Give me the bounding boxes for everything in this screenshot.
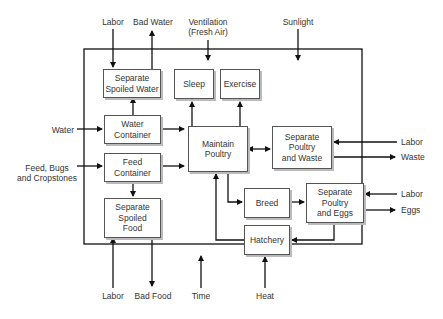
labor-eggs-label: Labor (401, 189, 423, 199)
exercise-box: Exercise (220, 69, 260, 99)
separate-spoiled-water-box: Separate Spoiled Water (103, 69, 161, 98)
bottom-labor-label: Labor (96, 291, 130, 301)
sunlight-label: Sunlight (276, 17, 320, 27)
water-label: Water (20, 125, 74, 135)
bad-water-label: Bad Water (128, 17, 178, 27)
heat-label: Heat (250, 291, 280, 301)
eggs-label: Eggs (401, 205, 420, 215)
waste-label: Waste (401, 152, 425, 162)
feed-container-box: Feed Container (104, 153, 161, 182)
water-container-box: Water Container (104, 115, 161, 144)
sleep-box: Sleep (174, 69, 214, 99)
time-label: Time (186, 291, 216, 301)
ventilation-label: Ventilation (Fresh Air) (178, 17, 238, 37)
separate-poultry-eggs-box: Separate Poultry and Eggs (306, 183, 364, 223)
separate-spoiled-food-box: Separate Spoiled Food (104, 198, 161, 238)
feed-label: Feed, Bugs and Cropstones (14, 163, 80, 183)
top-labor-label: Labor (96, 17, 130, 27)
bad-food-label: Bad Food (128, 291, 178, 301)
breed-box: Breed (244, 188, 290, 218)
labor-waste-label: Labor (401, 137, 423, 147)
maintain-poultry-box: Maintain Poultry (188, 126, 248, 172)
separate-poultry-waste-box: Separate Poultry and Waste (272, 126, 332, 169)
hatchery-box: Hatchery (244, 225, 290, 255)
